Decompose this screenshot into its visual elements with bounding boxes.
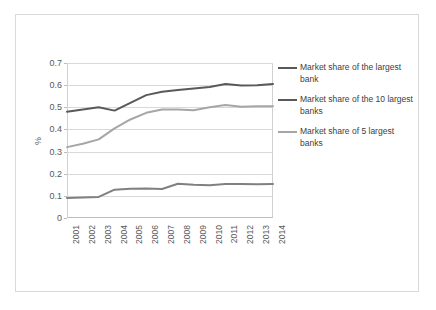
legend-item[interactable]: Market share of 5 largest banks	[278, 126, 413, 149]
y-axis-tick-label: 0.1	[49, 191, 62, 201]
x-axis-tick-label: 2005	[134, 225, 144, 265]
legend-swatch	[278, 131, 297, 133]
x-axis: 2001200220032004200520062007200820092010…	[67, 218, 273, 264]
y-axis-title: %	[32, 63, 44, 218]
legend-item[interactable]: Market share of the largest bank	[278, 62, 413, 85]
y-axis-tick-label: 0.6	[49, 80, 62, 90]
y-axis-tick-label: 0.7	[49, 58, 62, 68]
x-axis-tick-label: 2009	[198, 225, 208, 265]
legend-swatch	[278, 99, 297, 101]
y-axis-tick-label: 0.4	[49, 124, 62, 134]
plot-region: 00.10.20.30.40.50.60.7	[67, 63, 273, 218]
x-axis-tick-label: 2003	[103, 225, 113, 265]
legend-item-label: Market share of the 10 largest banks	[300, 94, 413, 117]
x-axis-tick-label: 2011	[229, 225, 239, 265]
series-lines	[67, 63, 273, 218]
x-axis-tick-label: 2014	[277, 225, 287, 265]
y-axis-tick-label: 0.3	[49, 147, 62, 157]
x-axis-tick-label: 2007	[166, 225, 176, 265]
y-axis-tick-label: 0.2	[49, 169, 62, 179]
x-axis-tick-label: 2013	[261, 225, 271, 265]
legend-swatch	[278, 67, 297, 69]
chart-legend: Market share of the largest bankMarket s…	[278, 62, 413, 158]
legend-item-label: Market share of the largest bank	[300, 62, 413, 85]
y-axis-title-label: %	[33, 136, 43, 144]
x-axis-tick-label: 2004	[119, 225, 129, 265]
legend-item[interactable]: Market share of the 10 largest banks	[278, 94, 413, 117]
y-axis-tick-label: 0	[57, 213, 62, 223]
x-axis-tick-label: 2010	[214, 225, 224, 265]
x-axis-tick-label: 2002	[87, 225, 97, 265]
y-axis-tick-label: 0.5	[49, 102, 62, 112]
x-axis-tick-label: 2012	[245, 225, 255, 265]
x-axis-tick-label: 2008	[182, 225, 192, 265]
series-line	[67, 105, 273, 147]
series-line	[67, 184, 273, 198]
x-axis-tick-label: 2006	[150, 225, 160, 265]
chart-container: % 00.10.20.30.40.50.60.7 200120022003200…	[15, 14, 419, 292]
x-axis-tick-label: 2001	[71, 225, 81, 265]
legend-item-label: Market share of 5 largest banks	[300, 126, 413, 149]
